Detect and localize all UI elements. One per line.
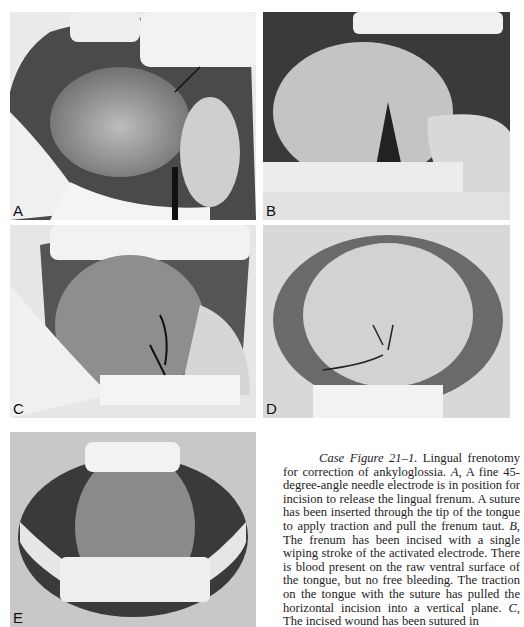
panel-label: E [13, 610, 23, 625]
panel-label: A [13, 203, 23, 218]
photo-incised-frenum [263, 12, 510, 220]
figure-panel-d: D [263, 225, 510, 418]
photo-healing-wound [263, 225, 510, 418]
panel-label: C [13, 401, 24, 416]
photo-tongue-electrode [10, 12, 256, 220]
panel-label: B [266, 203, 276, 218]
caption-ref-c: C, [508, 601, 520, 615]
figure-panel-e: E [10, 432, 256, 627]
photo-sutured-wound [10, 225, 256, 418]
figure-panel-a: A [10, 12, 256, 220]
figure-caption: Case Figure 21–1. Lingual frenotomy for … [283, 452, 520, 627]
caption-text: The incised wound has been sutured in [283, 614, 479, 627]
caption-title: Case Figure 21–1. [319, 451, 417, 465]
figure-panel-c: C [10, 225, 256, 418]
caption-ref-a: A, [451, 465, 462, 479]
caption-ref-b: B, [509, 519, 520, 533]
figure-panel-b: B [263, 12, 510, 220]
caption-text: The frenum has been incised with a singl… [283, 533, 520, 615]
photo-healed-result [10, 432, 256, 627]
panel-label: D [266, 401, 277, 416]
